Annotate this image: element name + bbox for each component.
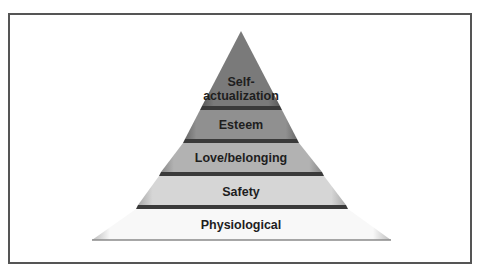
level-label-safety: Safety <box>0 185 482 199</box>
level-label-physiological: Physiological <box>0 218 482 232</box>
label-line-1: Self- <box>0 75 482 89</box>
separator <box>200 106 282 110</box>
separator <box>159 172 324 176</box>
level-label-self-actualization: Self- actualization <box>0 75 482 103</box>
separator <box>183 139 299 143</box>
separator <box>136 205 348 209</box>
level-label-esteem: Esteem <box>0 118 482 132</box>
level-label-love-belonging: Love/belonging <box>0 151 482 165</box>
label-line-2: actualization <box>0 89 482 103</box>
